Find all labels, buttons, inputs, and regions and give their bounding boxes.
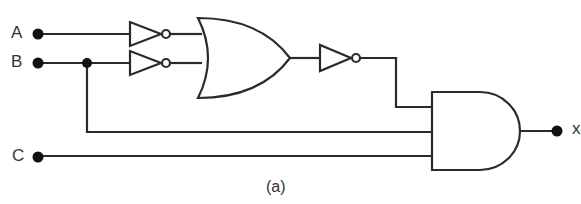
or-gate [198,18,290,98]
input-terminal-c [33,152,44,163]
junction-dot [82,58,92,68]
not-gate-3 [320,45,351,71]
and-gate [432,92,520,170]
not-bubble-2 [162,59,170,67]
not-gate-2 [130,51,161,75]
wire-not3-and [360,58,432,107]
output-terminal-x [552,126,563,137]
input-label-a: A [11,23,22,43]
input-label-c: C [12,146,24,166]
output-label-x: x [572,119,581,139]
input-terminal-a [33,29,44,40]
not-bubble-3 [352,54,360,62]
figure-caption: (a) [266,178,286,196]
not-bubble-1 [162,30,170,38]
input-terminal-b [33,58,44,69]
input-label-b: B [11,52,22,72]
not-gate-1 [130,22,161,46]
